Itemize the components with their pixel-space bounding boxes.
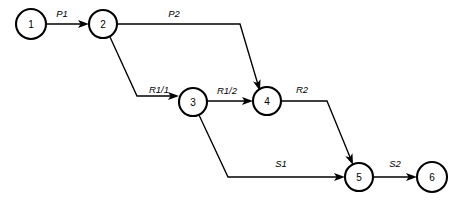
node-5[interactable]: 5 [345, 163, 373, 191]
node-2[interactable]: 2 [89, 10, 117, 38]
edge-label-e-r1-1: R1/1 [149, 84, 169, 95]
node-1[interactable]: 1 [16, 9, 46, 39]
edge-e-p2 [117, 24, 259, 88]
diagram-root: P1P2R1/1R1/2R2S1S2 123456 [0, 0, 463, 203]
node-label-4: 4 [264, 96, 270, 107]
arrowheads-layer [78, 20, 417, 181]
node-label-1: 1 [28, 19, 34, 30]
node-6[interactable]: 6 [417, 162, 447, 192]
edge-label-e-p2: P2 [168, 8, 180, 19]
edges-layer [46, 24, 414, 177]
node-4[interactable]: 4 [253, 87, 281, 115]
node-3[interactable]: 3 [179, 88, 207, 116]
edge-label-e-p1: P1 [56, 8, 68, 19]
edge-label-e-s2: S2 [389, 158, 401, 169]
node-label-5: 5 [356, 172, 362, 183]
edge-label-e-r1-2: R1/2 [217, 85, 238, 96]
node-label-6: 6 [429, 172, 435, 183]
node-label-2: 2 [100, 19, 106, 30]
edge-e-r2 [281, 101, 352, 162]
edge-e-s1 [199, 115, 342, 177]
node-label-3: 3 [190, 97, 196, 108]
edge-label-e-r2: R2 [296, 84, 309, 95]
edge-label-e-s1: S1 [275, 158, 287, 169]
graph-canvas: P1P2R1/1R1/2R2S1S2 123456 [0, 0, 463, 203]
